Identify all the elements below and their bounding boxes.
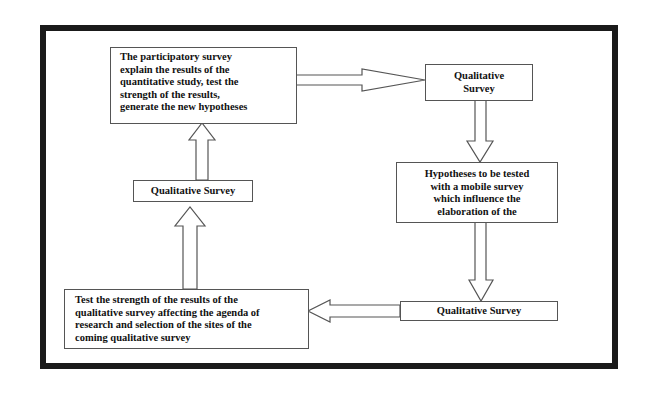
- node-text-line: research and selection of the sites of t…: [75, 319, 302, 332]
- node-qualitative-survey-bottom: Qualitative Survey: [400, 301, 558, 321]
- node-text-line: explain the results of the: [120, 64, 290, 77]
- node-participatory-survey: The participatory survey explain the res…: [110, 47, 297, 124]
- node-text-line: The participatory survey: [120, 51, 290, 64]
- node-text-line: Survey: [430, 83, 528, 96]
- node-text-line: Qualitative Survey: [437, 305, 521, 318]
- node-text-line: quantitative study, test the: [120, 76, 290, 89]
- node-text-line: generate the new hypotheses: [120, 101, 290, 114]
- node-hypotheses: Hypotheses to be tested with a mobile su…: [396, 162, 558, 223]
- node-text-line: Test the strength of the results of the: [75, 294, 302, 307]
- node-text-line: Hypotheses to be tested: [401, 168, 553, 181]
- node-qualitative-survey-left: Qualitative Survey: [133, 180, 253, 202]
- node-qualitative-survey-top: Qualitative Survey: [425, 64, 533, 101]
- node-text-line: elaboration of the: [401, 206, 553, 219]
- node-text-line: strength of the results,: [120, 89, 290, 102]
- node-text-line: with a mobile survey: [401, 181, 553, 194]
- node-text-line: Qualitative Survey: [151, 185, 235, 198]
- node-test-strength: Test the strength of the results of the …: [64, 289, 309, 349]
- node-text-line: qualitative survey affecting the agenda …: [75, 307, 302, 320]
- node-text-line: Qualitative: [430, 70, 528, 83]
- node-text-line: which influence the: [401, 193, 553, 206]
- node-text-line: coming qualitative survey: [75, 332, 302, 345]
